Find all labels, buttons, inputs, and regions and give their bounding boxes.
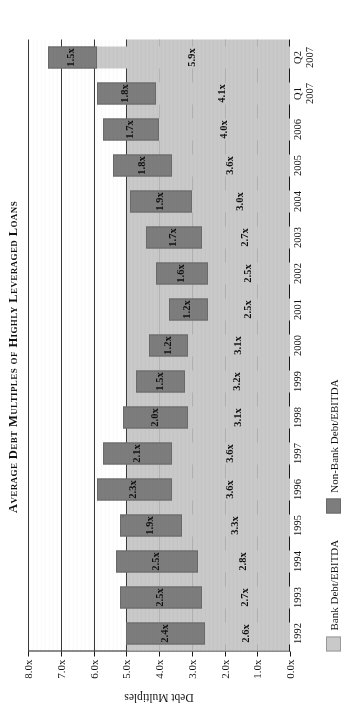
bar-segment-bank[interactable]: 3.2x: [185, 370, 290, 392]
bar-value-label-nonbank: 1.8x: [136, 156, 147, 174]
category-label-main: Q2: [292, 51, 303, 64]
bar-value-label-nonbank: 2.1x: [131, 444, 142, 462]
bar-segment-bank[interactable]: 2.7x: [202, 226, 290, 248]
bar-segment-nonbank[interactable]: 2.3x: [97, 478, 172, 500]
bar-segment-bank[interactable]: 3.1x: [188, 334, 290, 356]
chart-title: Average Debt Multiples of Highly Leverag…: [6, 0, 21, 713]
category-label: 2004: [292, 183, 304, 219]
bar-column[interactable]: 2.7x2.5x: [28, 586, 290, 608]
bar-value-label-bank: 2.8x: [237, 552, 248, 570]
y-axis-tick: [28, 651, 29, 656]
bar-value-label-bank: 3.0x: [234, 192, 245, 210]
bar-value-label-bank: 2.7x: [239, 228, 250, 246]
y-axis-tick-label: 8.0x: [22, 659, 34, 678]
legend-label-nonbank: Non-Bank Debt/EBITDA: [328, 379, 340, 492]
y-axis-tick-label: 0.0x: [284, 659, 296, 678]
bar-value-label-nonbank: 1.7x: [124, 120, 135, 138]
bar-segment-bank[interactable]: 2.8x: [198, 550, 290, 572]
bar-column[interactable]: 4.0x1.7x: [28, 118, 290, 140]
bar-value-label-bank: 3.1x: [232, 408, 243, 426]
category-label: 1999: [292, 363, 304, 399]
bar-segment-bank[interactable]: 3.6x: [172, 442, 290, 464]
bar-column[interactable]: 2.5x1.2x: [28, 298, 290, 320]
bar-segment-nonbank[interactable]: 1.7x: [146, 226, 202, 248]
bar-segment-nonbank[interactable]: 2.4x: [126, 622, 205, 644]
figure-page: Average Debt Multiples of Highly Leverag…: [0, 0, 354, 713]
bar-column[interactable]: 2.6x2.4x: [28, 622, 290, 644]
legend-swatch-bank-icon: [326, 636, 341, 651]
category-label: 2001: [292, 291, 304, 327]
bar-segment-bank[interactable]: 3.6x: [172, 478, 290, 500]
bar-column[interactable]: 2.7x1.7x: [28, 226, 290, 248]
y-axis-title: Debt Multiples: [28, 689, 290, 705]
plot-area: 8.0x7.0x6.0x5.0x4.0x3.0x2.0x1.0x0.0x 2.6…: [28, 39, 290, 651]
category-label: 1993: [292, 579, 304, 615]
bar-segment-nonbank[interactable]: 1.6x: [156, 262, 208, 284]
bar-segment-nonbank[interactable]: 1.9x: [120, 514, 182, 536]
bar-column[interactable]: 4.1x1.8x: [28, 82, 290, 104]
y-axis-tick-label: 4.0x: [153, 659, 165, 678]
bar-segment-bank[interactable]: 3.6x: [172, 154, 290, 176]
bar-segment-nonbank[interactable]: 2.1x: [103, 442, 172, 464]
category-label: 2003: [292, 219, 304, 255]
y-axis-tick-label: 6.0x: [88, 659, 100, 678]
bar-segment-bank[interactable]: 3.1x: [188, 406, 290, 428]
bar-segment-bank[interactable]: 3.3x: [182, 514, 290, 536]
bar-value-label-bank: 4.1x: [216, 84, 227, 102]
bar-segment-nonbank[interactable]: 1.5x: [48, 46, 97, 68]
category-label: 2002: [292, 255, 304, 291]
bar-segment-nonbank[interactable]: 2.0x: [123, 406, 189, 428]
bar-value-label-nonbank: 1.8x: [119, 84, 130, 102]
bar-value-label-nonbank: 2.5x: [150, 552, 161, 570]
bar-segment-bank[interactable]: 2.5x: [208, 298, 290, 320]
bar-segment-nonbank[interactable]: 1.5x: [136, 370, 185, 392]
legend-swatch-nonbank-icon: [326, 498, 341, 513]
y-axis-tick: [61, 651, 62, 656]
bar-segment-nonbank[interactable]: 1.2x: [149, 334, 188, 356]
bar-value-label-bank: 3.2x: [231, 372, 242, 390]
category-label: 2005: [292, 147, 304, 183]
y-axis-tick-label: 7.0x: [55, 659, 67, 678]
category-label: 1994: [292, 543, 304, 579]
bar-segment-nonbank[interactable]: 1.8x: [97, 82, 156, 104]
bar-segment-bank[interactable]: 5.9x: [97, 46, 290, 68]
legend-label-bank: Bank Debt/EBITDA: [328, 539, 340, 630]
bar-column[interactable]: 2.5x1.6x: [28, 262, 290, 284]
bar-value-label-bank: 2.5x: [242, 264, 253, 282]
y-axis-tick: [159, 651, 160, 656]
bar-value-label-bank: 3.6x: [224, 156, 235, 174]
bar-segment-nonbank[interactable]: 1.7x: [103, 118, 159, 140]
category-label: Q12007: [292, 75, 315, 111]
bar-segment-nonbank[interactable]: 1.2x: [169, 298, 208, 320]
bar-column[interactable]: 3.0x1.9x: [28, 190, 290, 212]
bar-value-label-bank: 5.9x: [186, 48, 197, 66]
bar-value-label-nonbank: 2.4x: [159, 624, 170, 642]
bar-segment-bank[interactable]: 2.5x: [208, 262, 290, 284]
bar-value-label-nonbank: 1.2x: [162, 336, 173, 354]
bar-segment-nonbank[interactable]: 1.8x: [113, 154, 172, 176]
bar-column[interactable]: 2.8x2.5x: [28, 550, 290, 572]
bar-segment-nonbank[interactable]: 2.5x: [120, 586, 202, 608]
bar-value-label-bank: 3.6x: [224, 444, 235, 462]
bar-segment-nonbank[interactable]: 2.5x: [116, 550, 198, 572]
y-axis-tick: [225, 651, 226, 656]
category-label: 2000: [292, 327, 304, 363]
bar-column[interactable]: 3.6x2.1x: [28, 442, 290, 464]
bar-column[interactable]: 3.2x1.5x: [28, 370, 290, 392]
bar-column[interactable]: 3.3x1.9x: [28, 514, 290, 536]
y-axis-tick: [257, 651, 258, 656]
category-label: 2006: [292, 111, 304, 147]
bar-segment-bank[interactable]: 2.7x: [202, 586, 290, 608]
category-label-sub: 2007: [304, 39, 316, 75]
bar-column[interactable]: 3.6x2.3x: [28, 478, 290, 500]
bar-segment-bank[interactable]: 2.6x: [205, 622, 290, 644]
bar-column[interactable]: 3.6x1.8x: [28, 154, 290, 176]
category-label: 1995: [292, 507, 304, 543]
bar-segment-bank[interactable]: 4.0x: [159, 118, 290, 140]
bar-segment-nonbank[interactable]: 1.9x: [130, 190, 192, 212]
bar-column[interactable]: 3.1x2.0x: [28, 406, 290, 428]
bar-column[interactable]: 3.1x1.2x: [28, 334, 290, 356]
bar-column[interactable]: 5.9x1.5x: [28, 46, 290, 68]
bar-segment-bank[interactable]: 3.0x: [192, 190, 290, 212]
bar-segment-bank[interactable]: 4.1x: [156, 82, 290, 104]
